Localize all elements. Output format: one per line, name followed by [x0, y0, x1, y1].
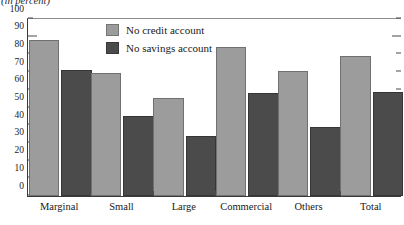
- bar: [29, 40, 60, 196]
- x-axis-tick-label: Others: [295, 201, 323, 212]
- bar: [278, 71, 309, 196]
- bar: [248, 93, 279, 196]
- bar: [61, 70, 92, 196]
- bar: [123, 116, 154, 196]
- legend-item-label: No credit account: [126, 24, 204, 36]
- y-axis-tick-label: 50: [15, 93, 25, 103]
- bar-group: [340, 19, 402, 196]
- y-axis-tick-label: 0: [19, 182, 24, 192]
- chart-page: (in percent) 0102030405060708090100 Marg…: [0, 0, 404, 225]
- x-axis-tick-label: Small: [109, 201, 134, 212]
- bar: [153, 98, 184, 196]
- bar: [186, 136, 217, 196]
- plot-area: 0102030405060708090100 MarginalSmallLarg…: [27, 18, 401, 197]
- y-axis-tick-label: 10: [15, 164, 25, 174]
- x-axis-tick-label: Marginal: [40, 201, 78, 212]
- unit-note: (in percent): [1, 0, 50, 6]
- legend-swatch-no-credit-account: [106, 24, 119, 36]
- y-axis-tick-label: 100: [10, 5, 24, 15]
- y-axis-tick-label: 80: [15, 40, 25, 50]
- x-axis-tick-mark: [215, 191, 216, 196]
- x-axis-tick-label: Total: [360, 201, 381, 212]
- x-axis-tick-label: Commercial: [220, 201, 272, 212]
- x-axis-tick-mark: [340, 191, 341, 196]
- bar-group: [215, 19, 277, 196]
- y-axis-tick-label: 90: [15, 22, 25, 32]
- bar: [373, 92, 404, 196]
- x-axis-tick-label: Large: [172, 201, 196, 212]
- y-axis-tick-label: 20: [15, 146, 25, 156]
- x-axis-tick-mark: [277, 191, 278, 196]
- legend-item: No credit account: [106, 21, 212, 38]
- y-axis-tick-label: 30: [15, 129, 25, 139]
- x-axis-tick-mark: [153, 191, 154, 196]
- bar: [310, 127, 341, 196]
- bar-group: [28, 19, 90, 196]
- bar: [91, 73, 122, 197]
- chart-legend: No credit accountNo savings account: [106, 21, 212, 57]
- legend-item-label: No savings account: [126, 42, 212, 54]
- y-axis-tick-label: 40: [15, 111, 25, 121]
- bar: [340, 56, 371, 197]
- bar-group: [277, 19, 339, 196]
- bar-series-area: [28, 19, 401, 196]
- legend-item: No savings account: [106, 39, 212, 56]
- x-axis-tick-mark: [90, 191, 91, 196]
- y-axis-tick-label: 60: [15, 76, 25, 86]
- y-axis-tick-label: 70: [15, 58, 25, 68]
- bar: [216, 47, 247, 196]
- legend-swatch-no-savings-account: [106, 42, 119, 54]
